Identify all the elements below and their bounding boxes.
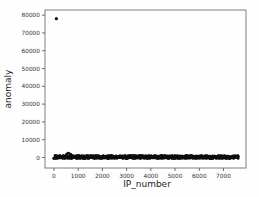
y-tick-label: 0 — [36, 155, 40, 161]
x-tick-label: 1000 — [71, 173, 86, 179]
plot-canvas: 01000200030004000500060007000 0100002000… — [0, 0, 259, 197]
x-axis-ticks: 01000200030004000500060007000 — [52, 168, 231, 179]
y-axis-label: anomaly — [3, 69, 13, 109]
x-tick-label: 7000 — [216, 173, 231, 179]
y-tick-label: 50000 — [22, 66, 41, 72]
scatter-plot-figure: 01000200030004000500060007000 0100002000… — [0, 0, 259, 197]
x-tick-label: 2000 — [95, 173, 110, 179]
plot-frame — [45, 10, 246, 168]
y-tick-label: 10000 — [22, 137, 41, 143]
x-axis-label: IP_number — [123, 179, 171, 189]
outlier-point — [55, 17, 58, 20]
y-axis-ticks: 0100002000030000400005000060000700008000… — [22, 12, 45, 160]
data-points — [52, 17, 240, 160]
y-tick-label: 30000 — [22, 101, 41, 107]
y-tick-label: 70000 — [22, 30, 41, 36]
y-tick-label: 40000 — [22, 83, 41, 89]
x-tick-label: 0 — [52, 173, 56, 179]
y-tick-label: 20000 — [22, 119, 41, 125]
y-tick-label: 60000 — [22, 48, 41, 54]
y-tick-label: 80000 — [22, 12, 41, 18]
x-tick-label: 6000 — [192, 173, 207, 179]
